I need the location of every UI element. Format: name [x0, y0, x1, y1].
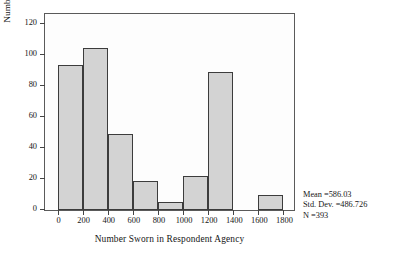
x-axis-tick-label: 1200 [201, 216, 218, 225]
x-axis-tick: 400 [108, 210, 109, 215]
y-axis-tick-label: 60 [29, 111, 37, 120]
histogram-bar [258, 195, 283, 210]
histogram-bar [183, 176, 208, 210]
y-axis-tick: 60 [40, 116, 45, 117]
histogram-figure: Number of Respondents 020406080100120 02… [0, 0, 395, 258]
x-axis-tick-label: 1600 [251, 216, 268, 225]
x-axis-tick-label: 600 [128, 216, 141, 225]
x-axis-tick: 1200 [208, 210, 209, 215]
y-axis-tick: 120 [40, 23, 45, 24]
y-axis-tick-label: 0 [33, 204, 37, 213]
stat-n: N =393 [303, 211, 367, 221]
x-axis-tick-label: 1400 [226, 216, 243, 225]
histogram-bar [58, 65, 83, 210]
y-axis-title: Number of Respondents [2, 0, 16, 52]
histogram-bar [133, 181, 158, 210]
x-axis-tick: 1600 [258, 210, 259, 215]
y-axis-tick: 0 [40, 209, 45, 210]
histogram-bar [158, 202, 183, 210]
y-axis-tick: 100 [40, 54, 45, 55]
x-axis-tick: 200 [83, 210, 84, 215]
y-axis-tick: 80 [40, 85, 45, 86]
x-axis-tick: 600 [133, 210, 134, 215]
histogram-bar [83, 48, 108, 210]
x-axis-tick-label: 0 [56, 216, 60, 225]
x-axis-tick-label: 200 [77, 216, 90, 225]
y-axis-tick-label: 80 [29, 80, 37, 89]
x-axis-tick: 1400 [233, 210, 234, 215]
x-axis-tick: 800 [158, 210, 159, 215]
y-axis-title-text: Number of Respondents [2, 0, 12, 52]
y-axis-tick-label: 20 [29, 173, 37, 182]
bars-layer [45, 14, 294, 210]
stat-mean: Mean =586.03 [303, 190, 367, 200]
y-axis-tick-label: 120 [24, 18, 37, 27]
stat-std-dev: Std. Dev. =486.726 [303, 200, 367, 210]
plot-area: 020406080100120 020040060080010001200140… [44, 13, 295, 211]
plot-inner: 020406080100120 020040060080010001200140… [45, 14, 294, 210]
y-axis-tick-label: 100 [24, 49, 37, 58]
y-axis-tick: 20 [40, 178, 45, 179]
x-axis-tick-label: 1000 [176, 216, 193, 225]
y-axis-tick: 40 [40, 147, 45, 148]
stats-annotation: Mean =586.03 Std. Dev. =486.726 N =393 [303, 190, 367, 221]
x-axis-tick: 1000 [183, 210, 184, 215]
x-axis-tick: 1800 [283, 210, 284, 215]
histogram-bar [208, 72, 233, 210]
x-axis-tick-label: 1800 [276, 216, 293, 225]
x-axis-tick-label: 800 [153, 216, 166, 225]
x-axis-tick: 0 [58, 210, 59, 215]
x-axis-title: Number Sworn in Respondent Agency [44, 234, 295, 244]
histogram-bar [108, 134, 133, 210]
y-axis-tick-label: 40 [29, 142, 37, 151]
x-axis-tick-label: 400 [102, 216, 115, 225]
